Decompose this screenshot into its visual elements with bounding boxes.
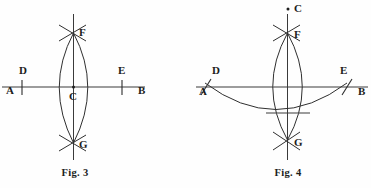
figure-4-group: A B D E C F G Fig. 4 xyxy=(196,2,368,178)
fig4-label-f: F xyxy=(294,28,301,40)
fig3-label-b: B xyxy=(138,84,146,96)
construction-diagram-canvas: A B D E C F G Fig. 3 xyxy=(0,0,371,188)
fig3-label-d: D xyxy=(19,64,27,76)
fig3-label-e: E xyxy=(118,64,126,76)
fig3-caption: Fig. 3 xyxy=(62,167,89,178)
fig4-label-b: B xyxy=(358,85,366,97)
fig4-label-a: A xyxy=(199,85,207,97)
fig4-label-d: D xyxy=(212,64,220,76)
fig4-point-c-dot xyxy=(287,8,290,11)
fig4-label-g: G xyxy=(294,136,303,148)
fig3-arc-left xyxy=(59,33,73,143)
fig3-label-a: A xyxy=(6,84,14,96)
fig4-label-e: E xyxy=(340,64,348,76)
fig4-label-c: C xyxy=(294,2,302,14)
fig4-caption: Fig. 4 xyxy=(275,167,302,178)
fig3-point-c-dot xyxy=(72,86,75,89)
figure-sheet: A B D E C F G Fig. 3 xyxy=(0,0,371,188)
fig3-arc-right xyxy=(74,33,88,143)
fig3-label-g: G xyxy=(79,138,88,150)
fig3-label-c: C xyxy=(69,90,77,102)
figure-3-group: A B D E C F G Fig. 3 xyxy=(2,14,146,178)
fig3-label-f: F xyxy=(79,26,86,38)
